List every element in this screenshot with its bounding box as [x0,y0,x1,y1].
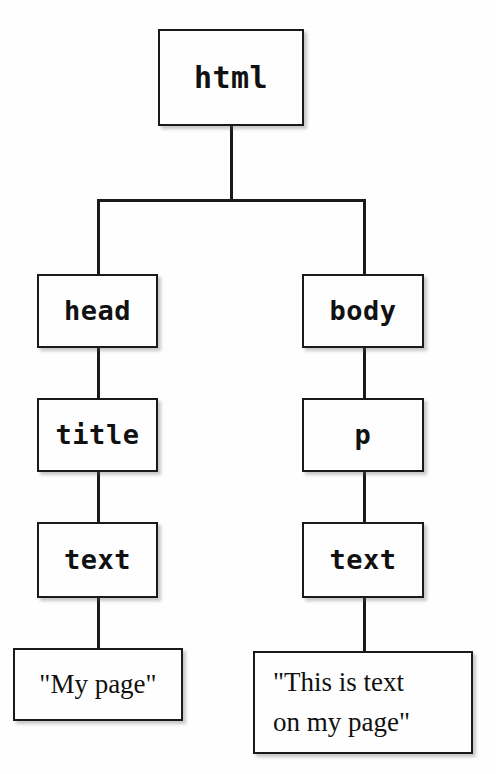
node-literal-my-page-label: "My page" [39,668,156,702]
node-literal-this-is-text-label: "This is text on my page" [273,663,410,741]
edge-text-to-mypage [97,597,100,649]
edge-title-to-text [97,471,100,523]
edge-p-to-text [363,471,366,523]
node-html-label: html [194,59,268,97]
node-p-label: p [355,418,372,452]
dom-tree-diagram: html head body title p text text "My pag… [0,0,496,774]
node-text-left: text [37,522,158,598]
node-title: title [37,398,158,472]
node-head-label: head [64,294,131,328]
node-head: head [37,274,158,348]
node-p: p [302,398,424,472]
node-html: html [158,29,304,126]
node-literal-this-is-text: "This is text on my page" [253,651,473,754]
node-body: body [302,274,424,348]
node-literal-my-page: "My page" [13,648,183,721]
edge-html-to-branch [230,126,233,201]
node-text-left-label: text [64,543,131,577]
edge-branch-to-head [97,199,100,275]
edge-text-to-thistext [363,597,366,652]
edge-branch-bar [97,199,366,202]
edge-branch-to-body [363,199,366,275]
node-title-label: title [56,418,140,452]
node-text-right: text [302,522,424,598]
node-body-label: body [329,294,396,328]
edge-body-to-p [363,347,366,399]
node-text-right-label: text [329,543,396,577]
edge-head-to-title [97,347,100,399]
